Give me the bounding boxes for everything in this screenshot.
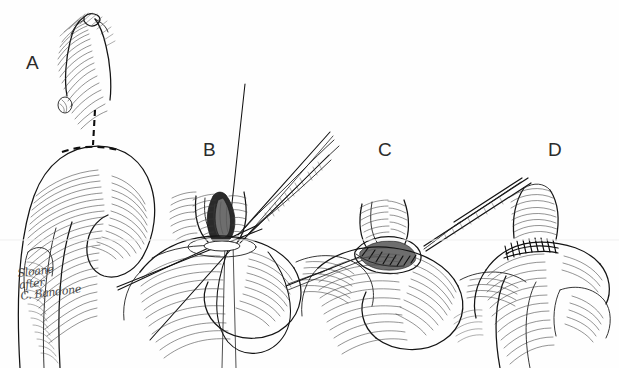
panel-b-drawing bbox=[117, 84, 374, 368]
suture-thread-b-2 bbox=[238, 132, 330, 235]
panel-label-d: D bbox=[548, 139, 562, 161]
incision-dash-vertical bbox=[93, 110, 95, 145]
forceps-upper-jaw bbox=[245, 140, 334, 228]
figure-root: A B C D Sloane after C. Bandone bbox=[0, 0, 619, 368]
forceps-lower-jaw bbox=[247, 160, 331, 236]
illustration-canvas bbox=[0, 0, 619, 368]
suture-line-d bbox=[504, 238, 558, 260]
panel-d-drawing bbox=[454, 178, 610, 368]
suture-tail-c bbox=[286, 252, 372, 286]
panel-c-drawing bbox=[286, 178, 531, 354]
panel-label-c: C bbox=[378, 139, 392, 161]
panel-label-b: B bbox=[203, 139, 216, 161]
suture-needle-d bbox=[454, 178, 522, 222]
panel-label-a: A bbox=[26, 52, 39, 74]
artist-signature: Sloane after C. Bandone bbox=[17, 261, 82, 303]
vessel-loop-a bbox=[58, 97, 72, 113]
